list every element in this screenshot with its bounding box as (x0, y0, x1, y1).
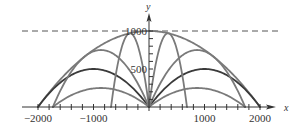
axes (22, 13, 276, 111)
x-tick-label: 1000 (194, 112, 217, 124)
x-tick-label: 2000 (249, 112, 272, 124)
trajectory-60deg-right (149, 50, 245, 107)
x-tick-label: −2000 (24, 112, 53, 124)
y-tick-label: 500 (131, 63, 148, 75)
chart-svg: −2000−1000100020005001000xy (0, 0, 301, 131)
x-tick-label: −1000 (79, 112, 108, 124)
y-tick-label: 1000 (125, 25, 148, 37)
projectile-trajectories-chart: −2000−1000100020005001000xy (0, 0, 301, 131)
x-axis-label: x (283, 102, 289, 113)
y-axis-label: y (145, 1, 151, 12)
trajectory-60deg-left (53, 50, 149, 107)
